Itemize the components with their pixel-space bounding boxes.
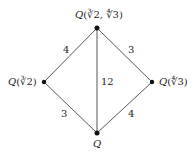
edge-right-bottom-degree: 4 [128, 109, 134, 119]
edge-left-bottom-degree: 3 [61, 109, 67, 119]
node-left-label: Q(∛2) [8, 77, 37, 87]
field-args: (∛2) [16, 76, 37, 87]
field-symbol: Q [159, 76, 167, 87]
edge-top-left-degree: 4 [63, 45, 69, 55]
field-symbol: Q [75, 9, 83, 20]
node-bottom-label: Q [93, 139, 101, 149]
field-args: (∛2, ∜3) [83, 9, 123, 20]
node-right-label: Q(∜3) [159, 77, 188, 87]
node-top-label: Q(∛2, ∜3) [75, 10, 123, 20]
edge-top-right-degree: 3 [128, 45, 134, 55]
edge-top-bottom-degree: 12 [101, 77, 114, 87]
field-symbol: Q [93, 138, 101, 149]
field-symbol: Q [8, 76, 16, 87]
field-args: (∜3) [167, 76, 188, 87]
